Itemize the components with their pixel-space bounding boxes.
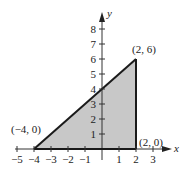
x-tick-label: 3	[150, 153, 156, 165]
x-tick-label: −1	[79, 153, 91, 165]
y-tick-label: 4	[91, 83, 97, 95]
x-tick-label: −5	[11, 153, 23, 165]
y-tick-labels: 1 2 3 4 5 6 7 8	[91, 23, 97, 140]
vertex-label-bottom-right: (2, 0)	[139, 136, 163, 149]
x-tick-labels: −5 −4 −3 −2 −1 1 2 3	[11, 153, 156, 165]
x-tick-label: 2	[133, 153, 139, 165]
x-axis-label: x	[173, 142, 179, 154]
y-tick-label: 8	[91, 23, 97, 35]
y-tick-label: 1	[91, 128, 97, 140]
y-tick-label: 6	[91, 53, 97, 65]
vertex-label-left: (−4, 0)	[11, 123, 41, 136]
vertex-label-top: (2, 6)	[132, 43, 156, 56]
x-tick-label: 1	[116, 153, 122, 165]
y-tick-label: 3	[91, 98, 97, 110]
y-tick-label: 7	[91, 38, 97, 50]
x-tick-label: −2	[62, 153, 74, 165]
y-tick-label: 2	[91, 113, 97, 125]
x-tick-label: −4	[28, 153, 40, 165]
y-axis-arrow-icon	[99, 12, 105, 22]
y-tick-label: 5	[91, 68, 97, 80]
x-axis-arrow-icon	[162, 146, 172, 152]
y-axis-label: y	[106, 7, 112, 19]
chart-canvas: −5 −4 −3 −2 −1 1 2 3 1 2 3 4 5 6 7 8 x y…	[0, 0, 189, 171]
x-tick-label: −3	[45, 153, 57, 165]
